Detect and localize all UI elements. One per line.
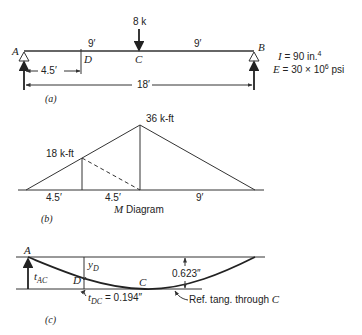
part-b-moment-diagram: 36 k-ft 18 k-ft 4.5′ 4.5′ 9′ M Diagram (… <box>18 113 264 225</box>
segment-1-label: 4.5′ <box>46 192 62 203</box>
elastic-modulus-text: E = 30 × 106 psi <box>272 63 344 75</box>
curve-point-a-label: A <box>23 244 31 256</box>
roller-support-b-icon <box>249 52 259 61</box>
t-ac-label: tAC <box>34 270 48 285</box>
t-dc-label: tDC = 0.194″ <box>88 291 143 306</box>
point-a-label: A <box>11 45 19 57</box>
y-d-label: yD <box>87 258 99 273</box>
point-c-label: C <box>135 53 143 65</box>
d-moment-label: 18 k-ft <box>46 148 74 159</box>
span-right-label: 9′ <box>194 38 202 49</box>
point-b-label: B <box>258 41 265 53</box>
beam-deflection-figure: A B D C 8 k 9′ 9′ 4.5′ 18′ I = 90 in.4 E… <box>0 0 362 335</box>
point-d-label: D <box>83 53 92 65</box>
part-b-caption: (b) <box>41 213 53 225</box>
part-a-caption: (a) <box>45 93 57 105</box>
dashed-divider-line <box>82 158 140 190</box>
moment-diagram-title: M Diagram <box>113 203 164 215</box>
load-label: 8 k <box>133 16 147 27</box>
peak-moment-label: 36 k-ft <box>146 113 174 124</box>
deflection-value-label: 0.623″ <box>172 268 201 279</box>
part-c-deflection: A D C tAC yD tDC = 0.194″ 0.623″ Ref. ta… <box>16 244 280 326</box>
span-left-label: 9′ <box>88 38 96 49</box>
part-a-beam: A B D C 8 k 9′ 9′ 4.5′ 18′ I = 90 in.4 E… <box>11 16 344 105</box>
t-dc-leader-icon <box>84 290 86 296</box>
ref-tangent-label: Ref. tang. through C <box>189 293 280 305</box>
curve-point-c-label: C <box>139 276 147 288</box>
pin-support-a-icon <box>19 52 29 61</box>
part-c-caption: (c) <box>45 314 57 326</box>
segment-3-label: 9′ <box>196 192 204 203</box>
moment-of-inertia-text: I = 90 in.4 <box>277 50 322 62</box>
segment-2-label: 4.5′ <box>105 192 121 203</box>
curve-point-d-label: D <box>72 274 81 286</box>
dim-ab-label: 18′ <box>137 79 150 90</box>
ref-tangent-leader-icon <box>175 291 188 300</box>
dim-ad-label: 4.5′ <box>41 65 57 76</box>
